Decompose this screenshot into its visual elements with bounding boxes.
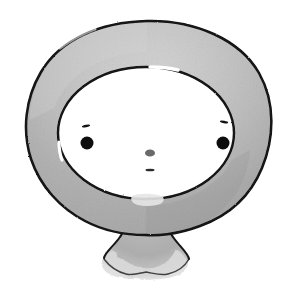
stem-junction-smudge	[131, 194, 164, 206]
nose-icon	[145, 149, 155, 156]
illustration-canvas: Ink and wash drawing of a ring-shaped fa…	[0, 0, 299, 285]
mouth-icon	[145, 169, 154, 172]
left-eye-icon	[81, 137, 94, 150]
right-eye-icon	[217, 137, 230, 150]
ring-face-drawing: Ink and wash drawing of a ring-shaped fa…	[0, 0, 299, 285]
ring-inner-contour	[58, 67, 234, 199]
